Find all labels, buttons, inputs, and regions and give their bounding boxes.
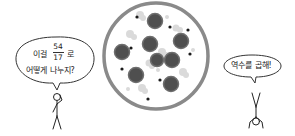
fraction-denominator: 17 <box>51 54 65 62</box>
right-stick-figure <box>249 93 263 128</box>
left-stick-figure <box>53 94 62 130</box>
right-bubble-text: 역수를 곱해! <box>231 61 272 71</box>
left-bubble-line1-suffix: 로 <box>67 50 74 60</box>
fraction-numerator: 54 <box>51 43 65 51</box>
left-bubble-line1-prefix: 이걸 <box>33 50 47 60</box>
left-bubble-line2: 어떻게 나누지? <box>26 66 75 76</box>
